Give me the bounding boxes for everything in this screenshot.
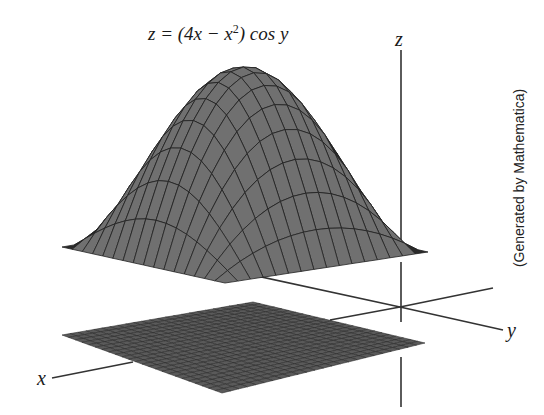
projection-floor-plane [62, 302, 425, 393]
x-axis-positive-far [400, 288, 493, 307]
y-axis-label: y [507, 319, 516, 342]
title-prefix: z = (4x − x [148, 23, 233, 44]
x-axis-front [52, 362, 133, 378]
credit-text: (Generated by Mathematica) [511, 89, 527, 267]
title-suffix: ) cos y [239, 23, 289, 44]
plot-title: z = (4x − x2) cos y [148, 22, 288, 45]
y-axis-positive [400, 307, 503, 330]
x-axis-back [243, 273, 400, 307]
y-axis-negative [330, 307, 400, 320]
surface-plot [0, 0, 544, 415]
z-axis-label: z [395, 28, 403, 51]
surface-mesh [62, 67, 428, 283]
x-axis-label: x [37, 367, 46, 390]
